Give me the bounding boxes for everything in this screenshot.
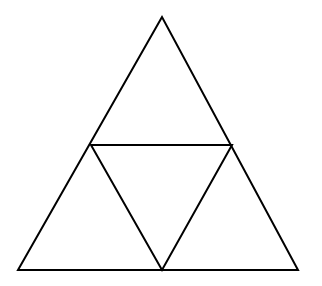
inner-inverted-triangle — [91, 145, 232, 270]
triangle-diagram — [0, 0, 322, 286]
outer-triangle — [18, 17, 298, 270]
